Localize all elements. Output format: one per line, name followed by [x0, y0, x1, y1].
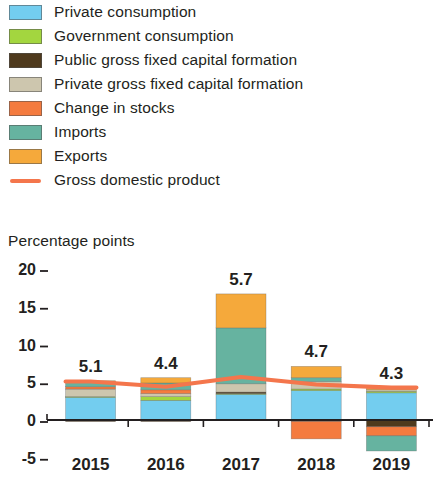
- bar-segment[interactable]: [141, 400, 191, 420]
- legend-item-label: Government consumption: [54, 28, 234, 44]
- legend-item[interactable]: Imports: [0, 120, 433, 144]
- bar-value-label: 5.1: [79, 357, 103, 376]
- legend-item-label: Imports: [54, 124, 106, 140]
- legend-item[interactable]: Change in stocks: [0, 96, 433, 120]
- legend-item-label: Exports: [54, 148, 107, 164]
- chart-legend: Private consumptionGovernment consumptio…: [0, 0, 433, 192]
- legend-item-label: Private consumption: [54, 4, 196, 20]
- legend-color-swatch-icon: [9, 5, 42, 20]
- bar-segment[interactable]: [66, 397, 116, 420]
- bar-segment[interactable]: [291, 366, 341, 377]
- bar-value-label: 4.7: [304, 342, 328, 361]
- x-axis-tick-label: 2019: [372, 455, 410, 474]
- legend-item[interactable]: Exports: [0, 144, 433, 168]
- bar-segment[interactable]: [366, 427, 416, 436]
- bar-segment[interactable]: [216, 394, 266, 420]
- chart-plot-area: 20151050-55.120154.420165.720174.720184.…: [0, 258, 433, 483]
- y-axis-tick-label: 5: [27, 374, 36, 391]
- y-axis-tick-label: 10: [18, 337, 36, 354]
- bar-segment[interactable]: [66, 389, 116, 397]
- y-axis-tick-label: 15: [18, 299, 36, 316]
- legend-item-label: Private gross fixed capital formation: [54, 76, 303, 92]
- x-axis-tick-label: 2018: [297, 455, 335, 474]
- gdp-contributions-figure: Private consumptionGovernment consumptio…: [0, 0, 433, 483]
- bar-segment[interactable]: [141, 390, 191, 394]
- legend-color-swatch-icon: [9, 149, 42, 164]
- y-axis-title: Percentage points: [8, 232, 135, 250]
- legend-color-swatch-icon: [9, 125, 42, 140]
- legend-item[interactable]: Government consumption: [0, 24, 433, 48]
- y-axis-tick-label: -5: [22, 450, 36, 467]
- legend-item-label: Public gross fixed capital formation: [54, 52, 297, 68]
- x-axis-tick-label: 2017: [222, 455, 260, 474]
- legend-item-label: Change in stocks: [54, 100, 175, 116]
- bar-segment[interactable]: [141, 378, 191, 383]
- legend-item[interactable]: Gross domestic product: [0, 168, 433, 192]
- bar-segment[interactable]: [66, 387, 116, 389]
- bar-value-label: 5.7: [229, 270, 253, 289]
- bar-segment[interactable]: [366, 436, 416, 451]
- bar-value-label: 4.3: [380, 364, 404, 383]
- stacked-bar-chart-svg: 20151050-55.120154.420165.720174.720184.…: [0, 258, 433, 483]
- bar-group[interactable]: [66, 381, 116, 422]
- bar-group[interactable]: [291, 366, 341, 438]
- y-axis-tick-label: 0: [27, 412, 36, 429]
- x-axis-tick-label: 2015: [72, 455, 110, 474]
- bar-segment[interactable]: [291, 391, 341, 420]
- legend-color-swatch-icon: [9, 101, 42, 116]
- legend-item-label: Gross domestic product: [54, 172, 220, 188]
- bar-segment[interactable]: [141, 394, 191, 397]
- bar-segment[interactable]: [291, 422, 341, 439]
- bar-segment[interactable]: [216, 294, 266, 328]
- bar-segment[interactable]: [216, 384, 266, 392]
- legend-color-swatch-icon: [9, 77, 42, 92]
- bar-value-label: 4.4: [154, 354, 178, 373]
- legend-color-swatch-icon: [9, 53, 42, 68]
- legend-item[interactable]: Public gross fixed capital formation: [0, 48, 433, 72]
- bar-segment[interactable]: [366, 393, 416, 420]
- y-axis-tick-label: 20: [18, 261, 36, 278]
- bar-group[interactable]: [216, 294, 266, 420]
- bar-segment[interactable]: [141, 397, 191, 401]
- legend-line-swatch-icon: [9, 173, 42, 188]
- legend-item[interactable]: Private gross fixed capital formation: [0, 72, 433, 96]
- legend-item[interactable]: Private consumption: [0, 0, 433, 24]
- x-axis-tick-label: 2016: [147, 455, 185, 474]
- legend-color-swatch-icon: [9, 29, 42, 44]
